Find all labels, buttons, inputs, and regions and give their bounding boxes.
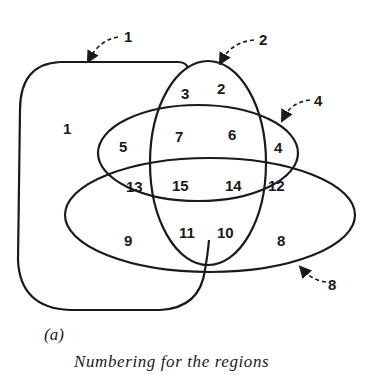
region-3: 3: [181, 85, 189, 102]
set-2-outline: [150, 61, 266, 265]
region-13: 13: [126, 178, 143, 195]
set-8-pointer-arrow: [303, 270, 326, 282]
venn-diagram-figure: 1 2 4 8 1 2 3 4 5 6 7 8 9 10 11 12 13 14…: [0, 0, 368, 375]
set-8-outline: [65, 158, 355, 272]
region-11: 11: [179, 224, 195, 241]
region-1: 1: [63, 120, 71, 137]
region-12: 12: [268, 177, 285, 194]
set-2-pointer-arrow: [222, 40, 254, 60]
region-7: 7: [175, 128, 183, 145]
region-6: 6: [228, 126, 236, 143]
set-8-pointer-label: 8: [328, 276, 336, 293]
set-2-pointer-label: 2: [259, 31, 267, 48]
venn-diagram: 1 2 4 8 1 2 3 4 5 6 7 8 9 10 11 12 13 14…: [0, 0, 368, 375]
region-8: 8: [277, 232, 285, 249]
region-10: 10: [217, 224, 234, 241]
set-1-pointer-arrow: [90, 37, 118, 58]
set-4-pointer-label: 4: [314, 92, 323, 109]
region-9: 9: [124, 232, 132, 249]
figure-tag: (a): [44, 325, 64, 345]
region-2: 2: [217, 80, 225, 97]
region-4: 4: [274, 139, 283, 156]
region-5: 5: [119, 138, 127, 155]
set-1-pointer-label: 1: [124, 28, 132, 45]
set-4-pointer-arrow: [284, 100, 310, 117]
figure-caption: Numbering for the regions: [74, 352, 269, 372]
region-14: 14: [225, 177, 242, 194]
region-15: 15: [172, 177, 189, 194]
